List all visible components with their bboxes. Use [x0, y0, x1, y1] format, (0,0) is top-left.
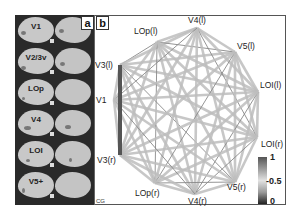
node-label: V3(l) — [95, 60, 113, 70]
graph-edge — [155, 182, 235, 183]
node-label: V3(r) — [97, 155, 116, 165]
node-label: LOI(r) — [261, 139, 283, 149]
colorbar-tick-min: 0 — [270, 196, 275, 206]
connectivity-graph: V3(l)LOp(l)V4(l)V5(l)LOI(l)LOI(r)V5(r)V4… — [0, 0, 300, 223]
colorbar-tick-max: 1 — [270, 152, 275, 162]
node-label: LOp(r) — [135, 188, 160, 198]
node-label: LOp(l) — [134, 26, 158, 36]
graph-edge — [195, 28, 197, 194]
node-label: LOI(l) — [260, 80, 281, 90]
panel-corner-label: CG — [96, 198, 105, 204]
node-label: V1 — [96, 95, 107, 105]
node-label: V4(l) — [188, 15, 206, 25]
node-label: V4(r) — [188, 196, 207, 206]
colorbar-tick-mid: -0.5 — [266, 176, 282, 186]
node-label: V5(l) — [237, 41, 255, 51]
node-label: V5(r) — [227, 182, 246, 192]
